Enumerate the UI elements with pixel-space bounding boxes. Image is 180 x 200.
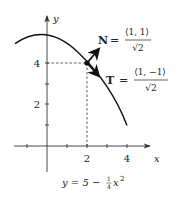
t-equals: = — [119, 74, 128, 87]
tangent-vector-arrow — [87, 63, 98, 75]
n-symbol: N — [98, 34, 108, 47]
x-axis-label: x — [154, 153, 160, 164]
x-tick-label-4: 4 — [124, 153, 130, 164]
x-tick-label-2: 2 — [84, 153, 90, 164]
equation-frac-num: 1 — [107, 175, 111, 182]
n-equals: = — [110, 34, 119, 47]
t-symbol: T — [106, 74, 115, 87]
normal-vector-label: N = ⟨1, 1⟩ √2 — [98, 27, 151, 53]
n-denominator: √2 — [132, 43, 143, 53]
y-tick-label-4: 4 — [34, 58, 40, 69]
diagram-canvas: 2 4 2 4 x y N = ⟨1, 1⟩ √2 T = ⟨1, −1⟩ √2… — [0, 0, 180, 200]
y-tick-label-2: 2 — [34, 99, 40, 110]
tangent-vector-label: T = ⟨1, −1⟩ √2 — [106, 67, 168, 93]
normal-vector-arrow — [87, 50, 98, 63]
equation-frac-den: 4 — [107, 183, 111, 190]
equation-exp: 2 — [120, 175, 124, 183]
n-numerator: ⟨1, 1⟩ — [125, 27, 149, 37]
equation-var: x — [113, 177, 119, 188]
t-denominator: √2 — [145, 83, 156, 93]
t-numerator: ⟨1, −1⟩ — [134, 67, 166, 77]
equation-caption: y = 5 − 1 4 x 2 — [61, 175, 124, 190]
equation-lhs: y = 5 − — [61, 177, 100, 188]
y-axis-label: y — [52, 13, 59, 24]
